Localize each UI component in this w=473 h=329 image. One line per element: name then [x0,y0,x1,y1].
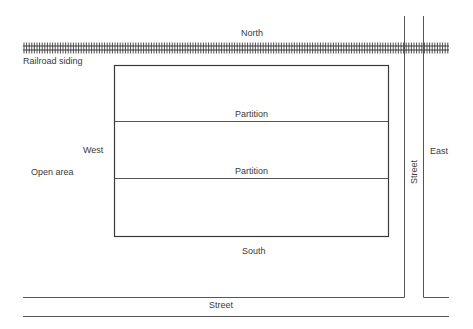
building-outline [115,66,389,237]
east-label: East [430,146,448,156]
railroad-label: Railroad siding [23,56,83,66]
north-label: North [241,28,263,38]
partition-label-2: Partition [235,166,268,176]
site-plan-drawing [0,0,473,329]
east-street [23,16,449,298]
railroad-siding [23,43,449,54]
south-label: South [242,246,266,256]
west-label: West [83,145,103,155]
partition-label-1: Partition [235,109,268,119]
open-area-label: Open area [31,167,74,177]
south-street-label: Street [209,300,233,310]
east-street-label: Street [409,158,419,186]
